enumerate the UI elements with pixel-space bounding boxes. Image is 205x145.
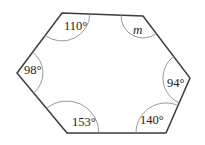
angle-label-top-left: 110°	[64, 20, 87, 33]
angle-label-top-right-unknown: m	[133, 23, 142, 36]
diagram-page: 110° m 94° 140° 153° 98°	[0, 0, 205, 145]
angle-label-bottom-right: 140°	[140, 114, 164, 127]
angle-label-bottom-left: 153°	[72, 116, 96, 129]
angle-label-left: 98°	[24, 64, 42, 77]
angle-label-right: 94°	[167, 77, 185, 90]
